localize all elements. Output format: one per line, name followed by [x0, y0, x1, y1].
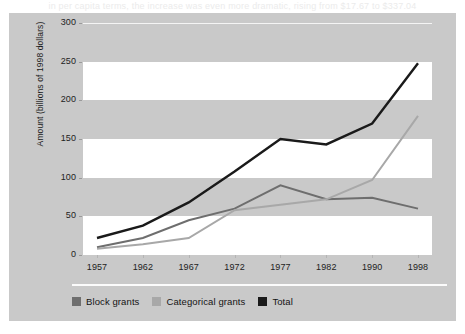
legend-item: Block grants: [72, 296, 139, 307]
x-tick-mark: [418, 255, 419, 258]
y-tick-label: 100: [46, 172, 76, 182]
x-tick-label: 1977: [260, 262, 300, 272]
series-lines: [83, 23, 432, 255]
series-line: [97, 116, 418, 249]
y-tick-label: 300: [46, 17, 76, 27]
y-tick-mark: [79, 139, 82, 140]
legend-item: Categorical grants: [152, 296, 245, 307]
legend-item: Total: [258, 296, 293, 307]
series-line: [97, 185, 418, 247]
legend-label: Total: [272, 296, 293, 307]
x-tick-mark: [326, 255, 327, 258]
y-tick-label: 0: [46, 249, 76, 259]
x-tick-label: 1972: [215, 262, 255, 272]
chart-legend: Block grantsCategorical grantsTotal: [72, 296, 293, 307]
y-axis-title: Amount (billions of 1998 dollars): [35, 4, 45, 164]
x-tick-mark: [235, 255, 236, 258]
legend-divider: [72, 284, 447, 286]
x-tick-label: 1982: [306, 262, 346, 272]
x-tick-mark: [143, 255, 144, 258]
y-tick-mark: [79, 62, 82, 63]
y-tick-label: 50: [46, 210, 76, 220]
x-tick-label: 1998: [398, 262, 438, 272]
x-tick-label: 1957: [77, 262, 117, 272]
x-tick-label: 1990: [352, 262, 392, 272]
cut-off-caption-above-figure: in per capita terms, the increase was ev…: [0, 0, 465, 13]
x-tick-label: 1967: [169, 262, 209, 272]
x-tick-mark: [97, 255, 98, 258]
y-tick-mark: [79, 100, 82, 101]
x-tick-label: 1962: [123, 262, 163, 272]
plot-area: [83, 23, 432, 255]
y-tick-label: 150: [46, 133, 76, 143]
y-tick-label: 200: [46, 94, 76, 104]
legend-swatch: [152, 297, 161, 306]
legend-label: Block grants: [86, 296, 139, 307]
legend-swatch: [72, 297, 81, 306]
y-tick-mark: [79, 178, 82, 179]
y-tick-mark: [79, 255, 82, 256]
y-tick-label: 250: [46, 56, 76, 66]
x-tick-mark: [189, 255, 190, 258]
y-tick-mark: [79, 216, 82, 217]
series-line: [97, 63, 418, 238]
y-tick-mark: [79, 23, 82, 24]
x-tick-mark: [280, 255, 281, 258]
x-tick-mark: [372, 255, 373, 258]
chart-figure: Amount (billions of 1998 dollars) 300250…: [9, 13, 456, 321]
legend-label: Categorical grants: [166, 296, 245, 307]
legend-swatch: [258, 297, 267, 306]
